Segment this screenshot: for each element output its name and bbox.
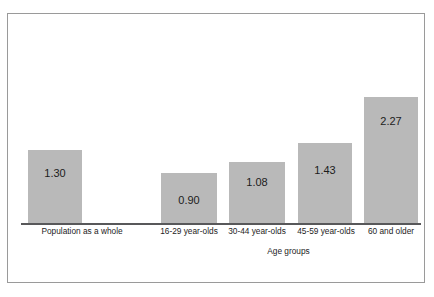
plot-area: 1.30 0.90 1.08 1.43 2.27 Population as a… (8, 14, 424, 282)
bar-value-label: 1.30 (28, 168, 82, 179)
chart-frame: 1.30 0.90 1.08 1.43 2.27 Population as a… (7, 13, 425, 283)
bar-45-59-year-olds: 1.43 (298, 143, 352, 223)
category-label-population-as-a-whole: Population as a whole (12, 227, 152, 236)
category-label-45-59-year-olds: 45-59 year-olds (291, 227, 361, 236)
bar-30-44-year-olds: 1.08 (229, 162, 285, 223)
bar-population-as-a-whole: 1.30 (28, 150, 82, 223)
x-axis-title: Age groups (154, 246, 423, 256)
bar-value-label: 0.90 (161, 195, 217, 206)
bar-value-label: 1.08 (229, 177, 285, 188)
bar-value-label: 1.43 (298, 165, 352, 176)
category-label-16-29-year-olds: 16-29 year-olds (154, 227, 224, 236)
category-axis-line (21, 223, 421, 225)
category-label-30-44-year-olds: 30-44 year-olds (222, 227, 292, 236)
figure: 1.30 0.90 1.08 1.43 2.27 Population as a… (0, 0, 434, 297)
category-label-60-and-older: 60 and older (359, 227, 423, 236)
bar-16-29-year-olds: 0.90 (161, 173, 217, 223)
bar-value-label: 2.27 (364, 116, 418, 127)
bar-60-and-older: 2.27 (364, 97, 418, 223)
